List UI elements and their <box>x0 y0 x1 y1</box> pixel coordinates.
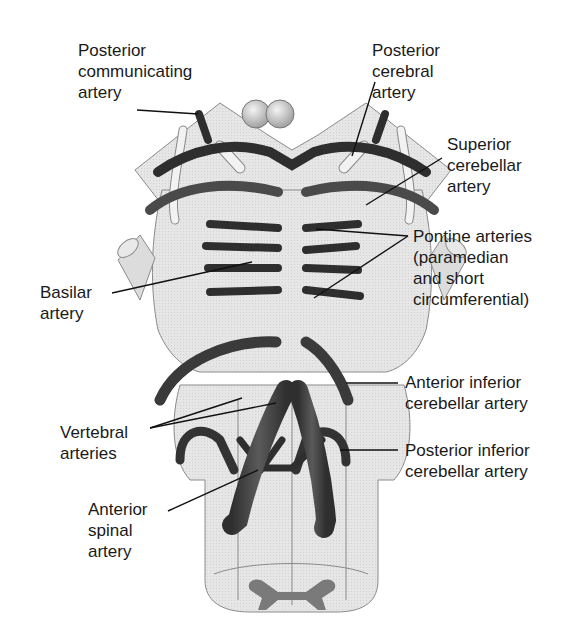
label-superior-cerebellar-artery: Superior cerebellar artery <box>447 134 522 197</box>
label-posterior-communicating-artery: Posterior communicating artery <box>78 40 192 103</box>
label-posterior-cerebral-artery: Posterior cerebral artery <box>372 40 440 103</box>
medulla <box>174 385 410 612</box>
label-basilar-artery: Basilar artery <box>40 282 92 324</box>
label-anterior-inferior-cerebellar-artery: Anterior inferior cerebellar artery <box>405 372 528 414</box>
brainstem-artery-diagram: Posterior communicating artery Posterior… <box>0 0 583 638</box>
label-anterior-spinal-artery: Anterior spinal artery <box>88 499 148 562</box>
label-vertebral-arteries: Vertebral arteries <box>60 422 128 464</box>
label-pontine-arteries: Pontine arteries (paramedian and short c… <box>413 226 532 310</box>
mammillary-bodies <box>242 100 294 128</box>
trigeminal-nerve-left <box>114 235 155 300</box>
label-posterior-inferior-cerebellar-artery: Posterior inferior cerebellar artery <box>405 440 530 482</box>
